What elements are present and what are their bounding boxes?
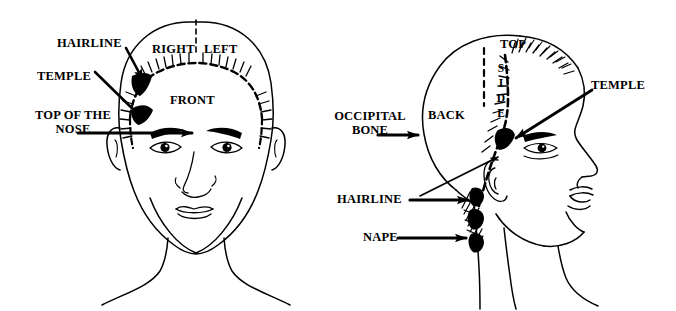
callout-temple-side: TEMPLE — [591, 78, 645, 92]
callout-occipital-bone-line2: BONE — [310, 123, 430, 137]
region-label-side-letter-d: D — [497, 92, 505, 104]
region-label-right: RIGHT — [152, 42, 195, 56]
region-label-top: TOP — [500, 37, 526, 51]
region-label-left: LEFT — [204, 42, 237, 56]
front-view-nose — [175, 152, 216, 197]
front-view-neck-shoulders — [102, 238, 290, 305]
callout-occipital-bone: OCCIPITAL BONE — [310, 109, 430, 137]
region-label-side-letter-e: E — [497, 107, 505, 119]
region-label-side-vertical: S I D E — [494, 60, 508, 120]
side-view-ear — [484, 160, 507, 202]
front-view-eyes — [150, 142, 242, 153]
side-view-temple-hair-mass — [495, 128, 515, 150]
side-view-eye-brow — [523, 132, 558, 159]
callout-nape: NAPE — [363, 230, 398, 244]
callout-hairline-side: HAIRLINE — [337, 192, 402, 206]
region-label-side-letter-s: S — [498, 62, 504, 74]
region-label-front: FRONT — [170, 93, 215, 107]
region-label-back: BACK — [428, 108, 465, 122]
region-label-side-letter-i: I — [499, 77, 503, 89]
callout-hairline-front: HAIRLINE — [57, 36, 122, 50]
callout-top-of-the-nose: TOP OF THE NOSE — [18, 108, 128, 136]
callout-top-of-the-nose-line2: NOSE — [18, 122, 128, 136]
front-view-head-outline — [119, 22, 274, 254]
callout-temple-front: TEMPLE — [37, 69, 91, 83]
side-view-nape-hair-mass — [468, 187, 484, 252]
callout-top-of-the-nose-line1: TOP OF THE — [18, 108, 128, 122]
side-view-neck-shoulders — [474, 203, 598, 309]
head-sections-diagram: HAIRLINE TEMPLE TOP OF THE NOSE RIGHT LE… — [0, 0, 676, 311]
front-view-mouth — [176, 207, 213, 219]
callout-occipital-bone-line1: OCCIPITAL — [310, 109, 430, 123]
